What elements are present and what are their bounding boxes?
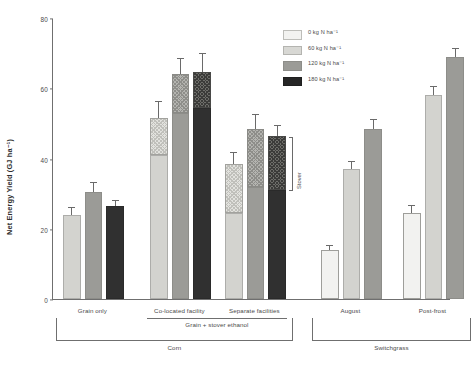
bar — [403, 213, 421, 299]
error-bar-cap — [177, 58, 184, 59]
legend-label: 180 kg N ha⁻¹ — [308, 76, 344, 82]
bar-segment-grain — [63, 215, 81, 299]
error-bar — [202, 54, 203, 73]
error-bar — [455, 49, 456, 57]
bar-segment-grain — [268, 190, 286, 299]
bar — [343, 169, 361, 299]
error-bar-cap — [348, 161, 355, 162]
bar-segment-stover — [268, 136, 286, 190]
bar — [446, 57, 464, 299]
bar — [150, 118, 168, 299]
y-axis-tick-mark — [50, 18, 53, 19]
y-axis-tick-mark — [50, 229, 53, 230]
error-bar-cap — [68, 207, 75, 208]
error-bar — [277, 126, 278, 136]
error-bar — [93, 183, 94, 192]
x-axis-group-label: August — [341, 307, 361, 314]
y-axis-tick-label: 80 — [40, 16, 48, 23]
bar — [364, 129, 382, 299]
error-bar — [351, 162, 352, 169]
legend-swatch-180 — [283, 77, 302, 87]
bar-segment-grain — [193, 108, 211, 299]
error-bar — [233, 153, 234, 164]
legend-label: 60 kg N ha⁻¹ — [308, 45, 341, 51]
error-bar-cap — [252, 114, 259, 115]
plot-area: 020406080Stover — [52, 19, 450, 300]
y-axis-tick-label: 20 — [40, 226, 48, 233]
error-bar — [158, 102, 159, 118]
bar — [193, 72, 211, 299]
bar-segment-stover — [247, 129, 265, 187]
stover-bracket — [289, 137, 293, 191]
bar-segment-stover — [225, 164, 243, 213]
legend-swatch-120 — [283, 61, 302, 71]
bar — [247, 129, 265, 299]
error-bar-cap — [274, 125, 281, 126]
bar — [225, 164, 243, 299]
error-bar-cap — [112, 200, 119, 201]
y-axis-tick-label: 60 — [40, 86, 48, 93]
bar-segment-grain — [225, 213, 243, 299]
bar-segment-grain — [247, 187, 265, 299]
error-bar-cap — [452, 48, 459, 49]
legend-swatch-60 — [283, 46, 302, 56]
legend-label: 120 kg N ha⁻¹ — [308, 60, 344, 66]
error-bar — [71, 208, 72, 215]
error-bar — [255, 115, 256, 128]
y-axis-tick-mark — [50, 159, 53, 160]
x-axis-supergroup-label: Corn — [168, 344, 182, 351]
y-axis-tick-label: 40 — [40, 156, 48, 163]
error-bar — [329, 246, 330, 250]
bar — [172, 74, 190, 299]
bar-segment-grain — [343, 169, 361, 299]
bar-segment-grain — [106, 206, 124, 299]
error-bar-cap — [90, 182, 97, 183]
error-bar-cap — [155, 101, 162, 102]
bar — [85, 192, 103, 299]
y-axis-label: Net Energy Yield (GJ ha⁻¹) — [5, 138, 14, 234]
legend-swatch-0 — [283, 30, 302, 40]
x-axis-group-label: Grain only — [78, 307, 107, 314]
switchgrass-bracket — [312, 318, 471, 341]
bar-segment-stover — [172, 74, 190, 113]
x-axis-supergroup-label: Switchgrass — [374, 344, 408, 351]
error-bar-cap — [326, 245, 333, 246]
bar-segment-grain — [321, 250, 339, 299]
error-bar — [115, 201, 116, 206]
error-bar-cap — [430, 86, 437, 87]
bar-segment-grain — [150, 155, 168, 299]
bar — [425, 95, 443, 299]
error-bar-cap — [408, 205, 415, 206]
x-axis-group-label: Co-located facility — [154, 307, 205, 314]
bar-segment-stover — [193, 72, 211, 107]
bar-segment-grain — [446, 57, 464, 299]
error-bar-cap — [199, 53, 206, 54]
bar — [321, 250, 339, 299]
y-axis-tick-label: 0 — [44, 297, 48, 304]
y-axis-tick-mark — [50, 299, 53, 300]
x-axis-group-label: Separate facilities — [229, 307, 280, 314]
bar — [63, 215, 81, 299]
stover-annotation: Stover — [296, 172, 302, 189]
error-bar-cap — [370, 119, 377, 120]
x-axis-group-label: Post-frost — [419, 307, 446, 314]
bar-segment-grain — [172, 113, 190, 299]
bar — [106, 206, 124, 299]
bar-segment-grain — [85, 192, 103, 299]
error-bar — [411, 206, 412, 213]
y-axis-tick-mark — [50, 89, 53, 90]
bar-segment-grain — [364, 129, 382, 299]
error-bar — [433, 87, 434, 96]
error-bar-cap — [230, 152, 237, 153]
bar-segment-grain — [425, 95, 443, 299]
bar — [268, 136, 286, 299]
error-bar — [180, 59, 181, 74]
corn-bracket — [56, 318, 293, 341]
legend-label: 0 kg N ha⁻¹ — [308, 29, 338, 35]
bar-segment-stover — [150, 118, 168, 155]
error-bar — [373, 120, 374, 128]
bar-segment-grain — [403, 213, 421, 299]
